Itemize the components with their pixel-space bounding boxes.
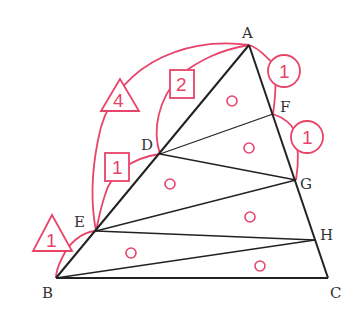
segment-eh — [96, 231, 315, 240]
label-f: F — [280, 98, 290, 116]
mark-value: 1 — [112, 157, 123, 178]
equal-area-mark — [227, 96, 237, 106]
equal-area-mark — [244, 143, 254, 153]
equal-area-mark — [255, 261, 265, 271]
mark-value: 4 — [113, 90, 124, 111]
segment-dg — [160, 154, 296, 180]
label-a: A — [241, 24, 253, 42]
equal-area-mark — [165, 179, 175, 189]
segment-ab — [56, 45, 249, 278]
label-c: C — [330, 284, 341, 302]
mark-value: 1 — [302, 127, 313, 148]
equal-area-mark — [126, 248, 136, 258]
label-e: E — [74, 213, 85, 231]
label-b: B — [42, 284, 53, 302]
mark-value: 1 — [279, 61, 290, 82]
label-h: H — [320, 226, 333, 244]
segment-df — [160, 114, 273, 154]
mark-value: 2 — [176, 74, 187, 95]
segment-eg — [96, 180, 296, 231]
label-d: D — [141, 136, 153, 154]
equal-area-mark — [245, 212, 255, 222]
geometry-diagram: 4 2 1 1 1 1 A B — [0, 0, 361, 323]
mark-value: 1 — [46, 230, 57, 251]
equal-area-marks — [126, 96, 265, 271]
label-g: G — [300, 175, 312, 193]
segment-bh — [56, 240, 315, 278]
